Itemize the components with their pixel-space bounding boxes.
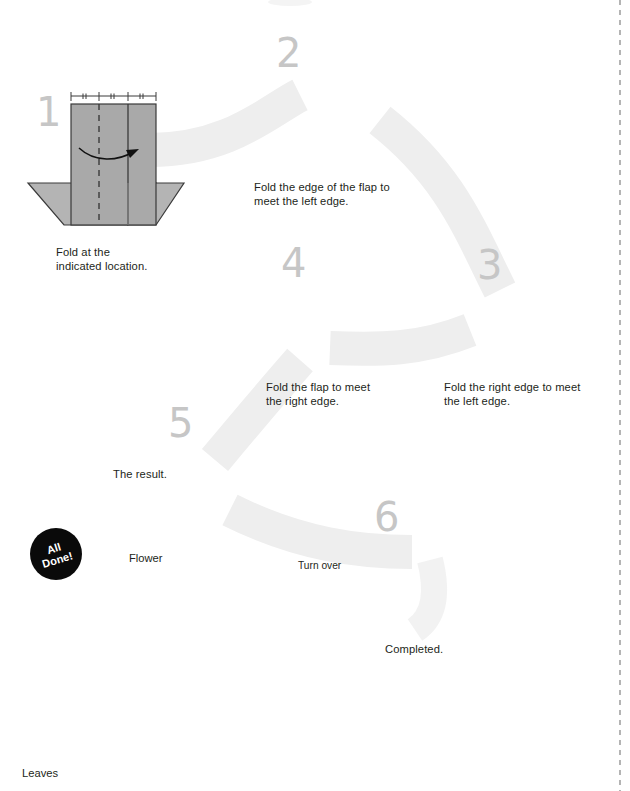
- ribbon-6-to-final: [415, 560, 434, 630]
- step-caption-1: Fold at the indicated location.: [56, 246, 147, 273]
- step-caption-2: Fold the edge of the flap to meet the le…: [254, 181, 390, 208]
- step-caption-5: The result.: [113, 468, 167, 482]
- step-caption-6: Completed.: [385, 643, 443, 657]
- step-number-4: 4: [281, 243, 306, 283]
- ribbon-1-to-2: [150, 95, 300, 150]
- flow-ribbons: [150, 95, 500, 630]
- step-number-2: 2: [276, 33, 301, 73]
- all-done-badge: All Done!: [30, 528, 82, 580]
- ribbon-4-to-5: [215, 360, 300, 460]
- step-number-1: 1: [36, 92, 61, 132]
- leaves-label: Leaves: [22, 767, 58, 779]
- step-1-measure-marks: [71, 92, 156, 101]
- step-number-5: 5: [168, 403, 193, 443]
- turn-over-label: Turn over: [298, 560, 341, 571]
- step-number-6: 6: [374, 497, 399, 537]
- step-caption-4: Fold the flap to meet the right edge.: [266, 381, 370, 408]
- ribbon-3-to-4: [330, 330, 470, 349]
- step-caption-3: Fold the right edge to meet the left edg…: [444, 381, 580, 408]
- step-1-paper-body: [71, 104, 156, 225]
- top-bleed-mark: [268, 0, 312, 6]
- step-number-3: 3: [477, 245, 502, 285]
- flower-label: Flower: [129, 552, 163, 564]
